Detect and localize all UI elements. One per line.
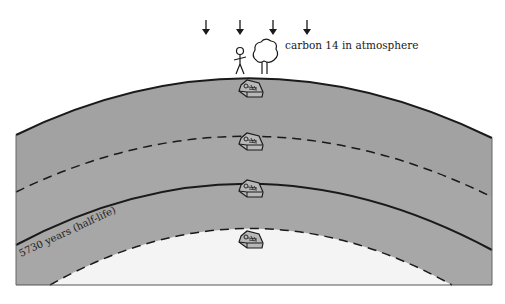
arrow-down-icon bbox=[202, 20, 210, 35]
atmosphere-label: carbon 14 in atmosphere bbox=[285, 39, 419, 51]
tree-icon bbox=[253, 39, 277, 74]
carbon-dating-diagram: carbon 14 in atmosphere 5730 years (half… bbox=[0, 0, 505, 304]
person-icon bbox=[234, 48, 246, 75]
arrow-down-icon bbox=[269, 20, 277, 35]
arrow-down-icon bbox=[236, 20, 244, 35]
arrow-down-icon bbox=[303, 20, 311, 35]
